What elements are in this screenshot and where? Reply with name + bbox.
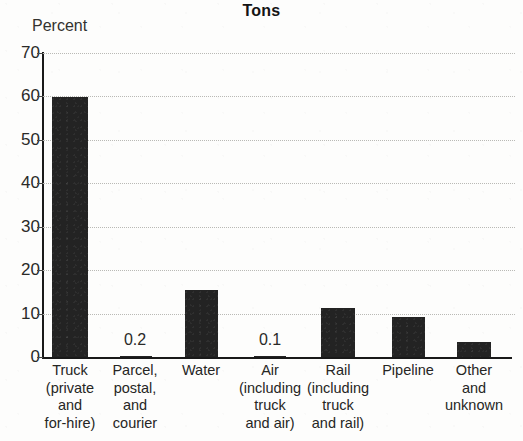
bar (185, 290, 218, 357)
y-axis-tick-mark (37, 227, 43, 228)
x-axis-category-label: Other and unknown (427, 362, 521, 415)
bar-value-label: 0.1 (230, 332, 310, 348)
y-axis-tick-label: 10 (6, 305, 40, 322)
y-axis-tick-label: 40 (6, 174, 40, 191)
y-axis-tick-mark (37, 314, 43, 315)
bar (457, 342, 491, 357)
y-axis-tick-label: 50 (6, 131, 40, 148)
gridline (43, 227, 515, 228)
y-axis-label: Percent (32, 17, 87, 35)
y-axis-tick-mark (37, 140, 43, 141)
y-axis-tick-label: 30 (6, 218, 40, 235)
gridline (43, 53, 515, 54)
bar (120, 356, 152, 358)
y-axis-tick-mark (37, 270, 43, 271)
gridline (43, 270, 515, 271)
y-axis-tick-mark (37, 357, 43, 358)
gridline (43, 314, 515, 315)
plot-area (43, 53, 515, 358)
gridline (43, 183, 515, 184)
y-axis-tick-mark (37, 183, 43, 184)
y-axis-tick-label: 20 (6, 261, 40, 278)
y-axis-tick-mark (37, 96, 43, 97)
gridline (43, 140, 515, 141)
y-axis-tick-mark (37, 53, 43, 54)
bar (392, 317, 425, 357)
bar (254, 356, 286, 358)
y-axis-tick-label: 60 (6, 87, 40, 104)
bar-value-label: 0.2 (95, 332, 175, 348)
bar (321, 308, 355, 357)
gridline (43, 96, 515, 97)
bar (52, 97, 88, 357)
chart-figure: Tons Percent 706050403020100 0.20.1 Truc… (0, 0, 523, 441)
y-axis-tick-label: 70 (6, 44, 40, 61)
